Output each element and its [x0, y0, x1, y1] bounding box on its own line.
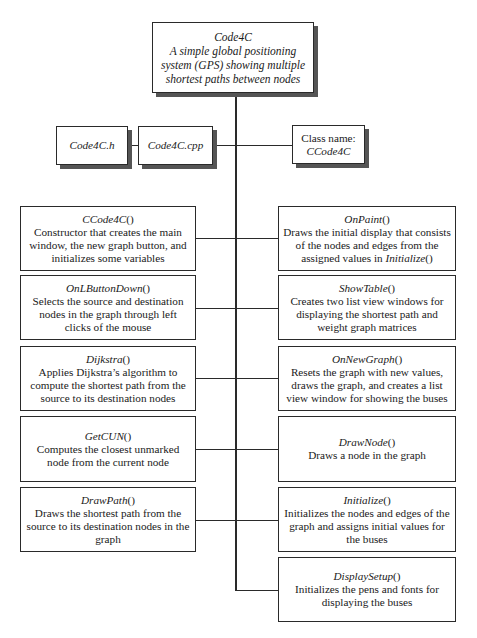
row1-connector [195, 238, 278, 239]
source-file-box: Code4C.cpp [138, 126, 213, 165]
function-description: Draws the shortest path from the source … [25, 507, 191, 546]
header-file-name: Code4C.h [69, 139, 114, 152]
function-box-dijkstra: Dijkstra() Applies Dijkstra’s algorithm … [20, 346, 196, 411]
row3-connector [195, 378, 278, 379]
function-name: OnNewGraph [332, 353, 395, 365]
row4-connector [195, 449, 278, 450]
cpp-to-class-connector [213, 145, 292, 146]
function-name: Dijkstra [86, 353, 123, 365]
function-box-onnewgraph: OnNewGraph() Resets the graph with new v… [278, 346, 456, 411]
root-description-line: shortest paths between nodes [166, 72, 300, 86]
function-name: OnLButtonDown [66, 282, 142, 294]
function-name: DrawPath [81, 494, 128, 506]
function-description: Selects the source and destination nodes… [25, 295, 191, 334]
function-name: Initialize [343, 494, 383, 506]
root-description-line: system (GPS) showing multiple [161, 58, 305, 72]
row6-connector [235, 590, 278, 591]
row2-connector [195, 308, 278, 309]
class-name-value: CCode4C [306, 145, 350, 158]
root-program-box: Code4C A simple global positioning syste… [152, 22, 314, 93]
class-name-label: Class name: [301, 132, 355, 145]
function-name: DrawNode [339, 436, 388, 448]
function-box-initialize: Initialize() Initializes the nodes and e… [278, 487, 456, 552]
function-name: OnPaint [344, 213, 382, 225]
function-box-drawpath: DrawPath() Draws the shortest path from … [20, 487, 196, 552]
function-description: Resets the graph with new values, draws … [283, 366, 451, 405]
function-description: Draws a node in the graph [308, 449, 426, 462]
function-box-getcun: GetCUN() Computes the closest unmarked n… [20, 416, 196, 482]
function-description: Initializes the nodes and edges of the g… [283, 507, 451, 546]
function-reference: Initialize [385, 252, 425, 264]
function-description: Applies Dijkstra’s algorithm to compute … [25, 366, 191, 405]
function-description: Creates two list view windows for displa… [283, 295, 451, 334]
function-box-ccode4c: CCode4C() Constructor that creates the m… [20, 206, 196, 271]
function-box-displaysetup: DisplaySetup() Initializes the pens and … [278, 557, 456, 622]
root-program-name: Code4C [214, 30, 252, 44]
function-name: GetCUN [85, 430, 124, 442]
function-description: Draws the initial display that consists … [283, 226, 451, 265]
h-to-cpp-connector [128, 145, 138, 146]
row5-connector [195, 520, 278, 521]
function-box-onlbuttondown: OnLButtonDown() Selects the source and d… [20, 275, 196, 340]
function-name: CCode4C [82, 213, 126, 225]
function-box-showtable: ShowTable() Creates two list view window… [278, 275, 456, 340]
function-description: Constructor that creates the main window… [25, 226, 191, 265]
class-name-box: Class name: CCode4C [292, 125, 365, 164]
root-description-line: A simple global positioning [170, 44, 297, 58]
function-box-onpaint: OnPaint() Draws the initial display that… [278, 206, 456, 271]
header-file-box: Code4C.h [56, 126, 128, 165]
function-name: DisplaySetup [333, 570, 393, 582]
source-file-name: Code4C.cpp [148, 139, 204, 152]
function-description: Computes the closest unmarked node from … [25, 443, 191, 469]
function-name: ShowTable [339, 282, 388, 294]
function-box-drawnode: DrawNode() Draws a node in the graph [278, 416, 456, 482]
function-description: Initializes the pens and fonts for displ… [283, 583, 451, 609]
trunk-line [235, 93, 237, 591]
